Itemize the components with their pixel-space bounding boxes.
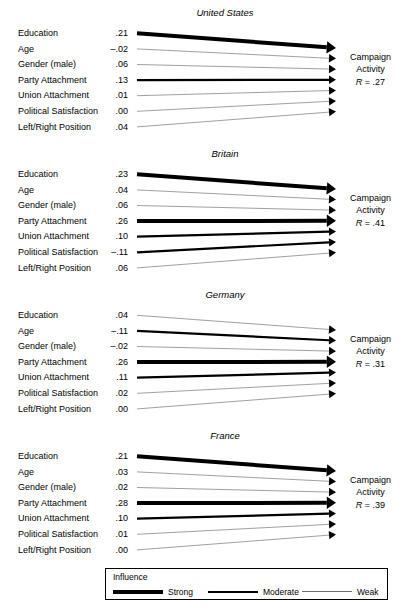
arrowhead-icon — [329, 488, 336, 496]
predictor-label: Party Attachment — [18, 73, 87, 89]
arrowhead-icon — [329, 520, 336, 528]
legend-title: Influence — [113, 572, 148, 583]
outcome-label-line1: Campaign — [338, 474, 403, 486]
panel-title: Germany — [140, 289, 310, 300]
influence-arrow-shaft — [137, 65, 329, 70]
predictor-row: Union Attachment.01 — [0, 88, 135, 104]
predictor-label: Gender (male) — [18, 480, 76, 496]
coefficient-value: .06 — [85, 57, 128, 73]
predictor-label: Party Attachment — [18, 214, 87, 230]
arrowhead-icon — [329, 531, 336, 539]
coefficient-value: .01 — [85, 527, 128, 543]
outcome-label-line1: Campaign — [338, 51, 403, 63]
influence-arrow-shaft — [137, 206, 329, 211]
predictor-label: Education — [18, 308, 58, 324]
arrowhead-icon — [327, 356, 336, 368]
predictor-label: Education — [18, 167, 58, 183]
arrowhead-icon — [329, 227, 336, 235]
coefficient-value: .26 — [85, 214, 128, 230]
coefficient-value: .03 — [85, 465, 128, 481]
arrowhead-icon — [329, 379, 336, 387]
predictor-row: Education.21 — [0, 449, 135, 465]
coefficient-value: .10 — [85, 229, 128, 245]
outcome-label-line1: Campaign — [338, 192, 403, 204]
coefficient-value: –.11 — [85, 324, 128, 340]
outcome-node: CampaignActivityR = .31 — [338, 333, 403, 370]
coefficient-value: .00 — [85, 402, 128, 418]
predictor-list: Education.04Age–.11Gender (male)–.02Part… — [0, 308, 135, 417]
panel-title: Britain — [140, 148, 310, 159]
predictor-list: Education.21Age.03Gender (male).02Party … — [0, 449, 135, 558]
predictor-row: Education.23 — [0, 167, 135, 183]
predictor-row: Gender (male).02 — [0, 480, 135, 496]
arrowhead-icon — [329, 347, 336, 355]
influence-arrow-shaft — [137, 49, 329, 58]
influence-arrow-shaft — [137, 242, 329, 252]
predictor-row: Left/Right Position.04 — [0, 120, 135, 136]
predictor-label: Gender (male) — [18, 57, 76, 73]
arrowhead-icon — [327, 497, 336, 509]
influence-arrow-shaft — [137, 33, 327, 47]
coefficient-value: .01 — [85, 88, 128, 104]
panel-united-states: United StatesEducation.21Age–.02Gender (… — [0, 7, 403, 147]
coefficient-value: .00 — [85, 104, 128, 120]
predictor-label: Left/Right Position — [18, 120, 91, 136]
coefficient-value: –.02 — [85, 42, 128, 58]
predictor-row: Union Attachment.10 — [0, 511, 135, 527]
predictor-label: Gender (male) — [18, 198, 76, 214]
influence-arrow-shaft — [137, 331, 329, 340]
predictor-label: Party Attachment — [18, 355, 87, 371]
arrowhead-icon — [329, 368, 336, 376]
arrowhead-icon — [329, 509, 336, 517]
arrowhead-icon — [326, 41, 336, 53]
predictor-label: Left/Right Position — [18, 261, 91, 277]
coefficient-value: .21 — [85, 26, 128, 42]
coefficient-value: .00 — [85, 543, 128, 559]
predictor-row: Gender (male).06 — [0, 57, 135, 73]
legend-line-weak-icon — [302, 591, 352, 592]
outcome-node: CampaignActivityR = .27 — [338, 51, 403, 88]
panel-france: FranceEducation.21Age.03Gender (male).02… — [0, 430, 403, 570]
influence-arrow-shaft — [137, 315, 329, 329]
path-diagram-figure: United StatesEducation.21Age–.02Gender (… — [0, 0, 403, 615]
legend-label-weak: Weak — [357, 587, 379, 597]
coefficient-value: .04 — [85, 120, 128, 136]
coefficient-value: .06 — [85, 198, 128, 214]
influence-arrow-shaft — [137, 488, 329, 493]
influence-arrow-shaft — [137, 394, 329, 409]
coefficient-value: .11 — [85, 370, 128, 386]
influence-arrow-shaft — [137, 383, 329, 393]
coefficient-value: –.02 — [85, 339, 128, 355]
influence-arrow-shaft — [137, 347, 329, 352]
predictor-label: Left/Right Position — [18, 543, 91, 559]
legend-label-strong: Strong — [168, 587, 193, 597]
predictor-row: Gender (male)–.02 — [0, 339, 135, 355]
predictor-row: Political Satisfaction.02 — [0, 386, 135, 402]
influence-arrow-shaft — [137, 91, 329, 96]
arrowhead-icon — [329, 206, 336, 214]
influence-arrow-shaft — [137, 373, 329, 378]
coefficient-value: .23 — [85, 167, 128, 183]
predictor-label: Party Attachment — [18, 496, 87, 512]
legend-item-weak: Weak — [302, 585, 379, 597]
influence-arrow-shaft — [137, 472, 329, 481]
coefficient-value: .26 — [85, 355, 128, 371]
arrowhead-icon — [329, 76, 336, 84]
outcome-label-line2: Activity — [338, 63, 403, 75]
panel-britain: BritainEducation.23Age.04Gender (male).0… — [0, 148, 403, 288]
arrowhead-icon — [329, 336, 336, 344]
coefficient-value: .10 — [85, 511, 128, 527]
coefficient-value: –.11 — [85, 245, 128, 261]
coefficient-value: .04 — [85, 183, 128, 199]
coefficient-value: .06 — [85, 261, 128, 277]
influence-arrow-shaft — [137, 535, 329, 550]
predictor-label: Age — [18, 183, 34, 199]
predictor-row: Left/Right Position.06 — [0, 261, 135, 277]
arrowhead-icon — [329, 390, 336, 398]
predictor-row: Education.21 — [0, 26, 135, 42]
legend-line-strong-icon — [113, 590, 163, 594]
predictor-row: Age–.11 — [0, 324, 135, 340]
arrowhead-icon — [329, 65, 336, 73]
influence-arrow-shaft — [137, 514, 329, 519]
outcome-label-line2: Activity — [338, 345, 403, 357]
